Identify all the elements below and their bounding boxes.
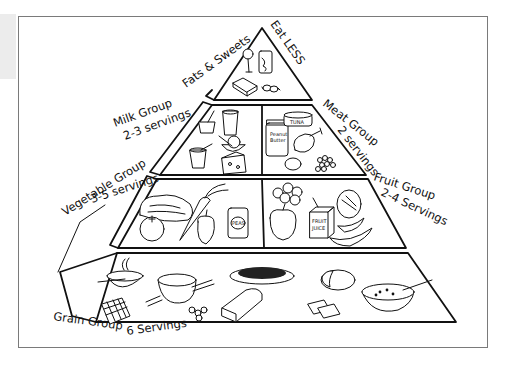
tier-3-divider [262, 179, 264, 248]
soda-can-icon [259, 51, 272, 73]
svg-text:TUNA: TUNA [289, 119, 304, 125]
label-eat-less: Eat LESS [268, 18, 309, 68]
svg-text:Butter: Butter [270, 137, 287, 143]
tuna-can-icon: TUNA [284, 112, 312, 126]
cereal-bowl-icon [98, 258, 143, 287]
ice-cream-bar-icon [243, 49, 253, 72]
bread-slice-icon [222, 289, 262, 322]
rice-bowl-chopsticks-icon [146, 274, 214, 306]
yogurt-cup-icon [199, 111, 215, 133]
milk-foods [190, 110, 246, 174]
beans-icon [316, 156, 336, 172]
food-pyramid: Fats & Sweets Eat LESS Milk Group 2-3 se… [0, 0, 506, 372]
candies-icon [262, 85, 280, 92]
svg-text:FRUIT: FRUIT [312, 218, 327, 224]
yogurt-cup-2-icon [190, 144, 212, 168]
chicken-drumstick-icon [294, 128, 322, 152]
fats-foods [233, 49, 280, 96]
cottage-cheese-bowl-icon [219, 136, 245, 152]
svg-text:JUICE: JUICE [311, 225, 325, 231]
label-grain-servings: 6 Servings [125, 316, 187, 338]
melon-icon [337, 190, 361, 218]
butter-icon [233, 78, 257, 96]
strawberries-icon [273, 183, 302, 205]
fruit-foods: FRUIT JUICE [270, 183, 372, 246]
bananas-icon [330, 218, 372, 246]
cereal-rings-icon [189, 307, 207, 321]
pasta-plate-icon [230, 267, 294, 284]
apple-icon [270, 204, 296, 240]
grain-foods [98, 258, 432, 324]
tortilla-icon [321, 270, 355, 290]
vegetable-foods: PEAS [140, 184, 248, 244]
svg-text:PEAS: PEAS [232, 220, 245, 226]
tomato-icon [140, 216, 164, 241]
crackers-icon [308, 300, 340, 318]
milk-glass-icon [223, 110, 238, 135]
peas-can-icon: PEAS [228, 208, 248, 238]
fruit-juice-box-icon: FRUIT JUICE [310, 198, 334, 238]
cheese-wedge-icon [222, 152, 246, 174]
tier-fats-ledge [206, 90, 214, 100]
soup-bowl-icon [362, 280, 432, 311]
egg-icon [285, 158, 301, 170]
bell-pepper-icon [198, 210, 215, 244]
